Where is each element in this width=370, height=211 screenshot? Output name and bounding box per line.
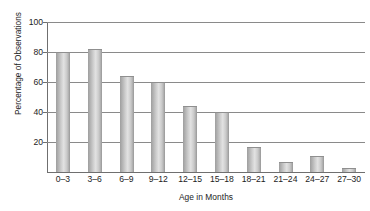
y-axis-tick-label: 60	[17, 78, 43, 87]
y-axis-tick-mark	[43, 52, 47, 53]
y-axis-tick-mark	[43, 142, 47, 143]
y-axis-tick-mark	[43, 82, 47, 83]
bar	[120, 76, 134, 172]
y-axis-tick-label: 40	[17, 108, 43, 117]
x-axis-tick-label: 21–24	[269, 174, 303, 185]
y-axis-tick-label: 80	[17, 48, 43, 57]
x-axis-tick-label: 6–9	[110, 174, 144, 185]
x-axis-tick-labels: 0–33–66–99–1212–1515–1818–2121–2424–2727…	[47, 174, 365, 188]
x-axis-tick-label: 18–21	[237, 174, 271, 185]
bar	[151, 82, 165, 172]
x-axis-tick-label: 12–15	[173, 174, 207, 185]
bar	[279, 162, 293, 173]
x-axis-tick-label: 9–12	[141, 174, 175, 185]
bar-series	[47, 22, 365, 172]
x-axis-line	[47, 172, 365, 173]
bar	[88, 49, 102, 172]
x-axis-title: Age in Months	[47, 192, 365, 202]
bar	[247, 147, 261, 173]
bar-chart: Percentage of Observations 20406080100 0…	[0, 0, 370, 211]
x-axis-tick-label: 3–6	[78, 174, 112, 185]
bar	[183, 106, 197, 172]
y-axis-tick-labels: 20406080100	[16, 0, 43, 211]
x-axis-tick-label: 24–27	[300, 174, 334, 185]
x-axis-tick-label: 27–30	[332, 174, 366, 185]
x-axis-tick-label: 0–3	[46, 174, 80, 185]
bar	[342, 168, 356, 173]
y-axis-tick-mark	[43, 112, 47, 113]
bar	[215, 112, 229, 172]
bar	[310, 156, 324, 173]
y-axis-tick-mark	[43, 22, 47, 23]
x-axis-tick-label: 15–18	[205, 174, 239, 185]
y-axis-tick-label: 100	[17, 18, 43, 27]
y-axis-tick-label: 20	[17, 138, 43, 147]
plot-area	[47, 22, 365, 172]
bar	[56, 52, 70, 172]
